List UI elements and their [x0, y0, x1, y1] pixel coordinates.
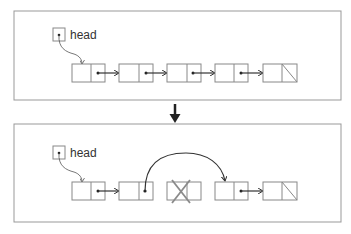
down-arrow-icon	[170, 104, 181, 123]
node-2	[119, 182, 153, 200]
after-panel-border	[14, 124, 341, 222]
node-5-null	[263, 64, 297, 82]
before-panel-border	[14, 11, 341, 100]
before-panel: head	[14, 11, 341, 100]
node-3-deleted	[167, 180, 201, 203]
head-label: head	[70, 146, 97, 160]
node-5-null	[263, 182, 297, 200]
head-label: head	[70, 28, 97, 42]
linked-list-deletion-diagram: head	[0, 0, 351, 234]
after-panel: head	[14, 124, 341, 222]
